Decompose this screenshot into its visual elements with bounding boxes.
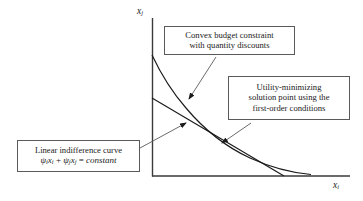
y-axis-label-subscript: j [141,9,143,16]
callout-utility-line-2: solution point using the [233,92,345,102]
callout-utility-line-1: Utility-minimizing [233,82,345,92]
callout-linear-indifference-curve: Linear indifference curve ψixi + ψjxj = … [17,140,140,172]
x-axis-label-subscript: i [337,183,339,190]
formula-rhs: constant [86,155,117,165]
formula-x-j-sub: j [75,159,77,166]
callout-utility-line-3: first-order conditions [233,103,345,113]
formula-equals: = [79,155,84,165]
leader-linear [140,123,186,148]
x-axis-label: xi [333,180,339,190]
leader-convex [189,57,216,99]
callout-convex-line-1: Convex budget constraint [169,30,290,40]
callout-utility-minimizing-point: Utility-minimizing solution point using … [228,76,350,120]
formula-x-i-sub: i [52,159,54,166]
callout-linear-formula: ψixi + ψjxj = constant [22,155,135,166]
formula-plus: + [56,155,61,165]
callout-convex-line-2: with quantity discounts [169,40,290,50]
callout-linear-line-1: Linear indifference curve [22,145,135,155]
callout-convex-budget-constraint: Convex budget constraint with quantity d… [164,26,295,55]
y-axis-label: xj [137,6,143,16]
leader-utility [222,123,251,143]
economics-figure: xj xi Convex budget constraint with quan… [0,0,363,201]
